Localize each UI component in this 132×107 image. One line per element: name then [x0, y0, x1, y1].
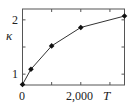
- y-axis-label: κ: [6, 28, 13, 43]
- data-point-4: [122, 13, 128, 19]
- x-tick-label-2000: 2,000: [66, 89, 93, 103]
- y-tick-label-1: 1: [12, 67, 18, 81]
- series-line: [23, 16, 125, 84]
- chart: 1 2 0 2,000 κ T: [0, 0, 132, 107]
- data-point-3: [78, 25, 84, 31]
- x-axis-label: T: [103, 88, 111, 103]
- x-tick-label-0: 0: [19, 89, 25, 103]
- y-tick-label-2: 2: [12, 13, 18, 27]
- data-point-0: [20, 82, 26, 88]
